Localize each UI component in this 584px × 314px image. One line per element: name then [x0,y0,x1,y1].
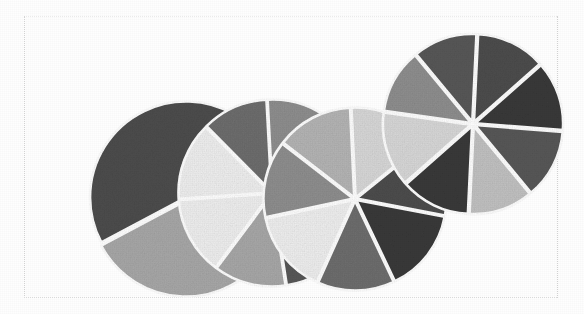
pie-chart-series: Pie 1 — A: 26Pie 1 — B: 13Pie 2 — A: 13P… [0,0,584,314]
pie-4: Pie 4 — A: 12Pie 4 — B: 12Pie 4 — C: 13P… [383,34,563,214]
pies-group: Pie 1 — A: 26Pie 1 — B: 13Pie 2 — A: 13P… [90,34,563,297]
figure-root: Pie 1 — A: 26Pie 1 — B: 13Pie 2 — A: 13P… [0,0,584,314]
